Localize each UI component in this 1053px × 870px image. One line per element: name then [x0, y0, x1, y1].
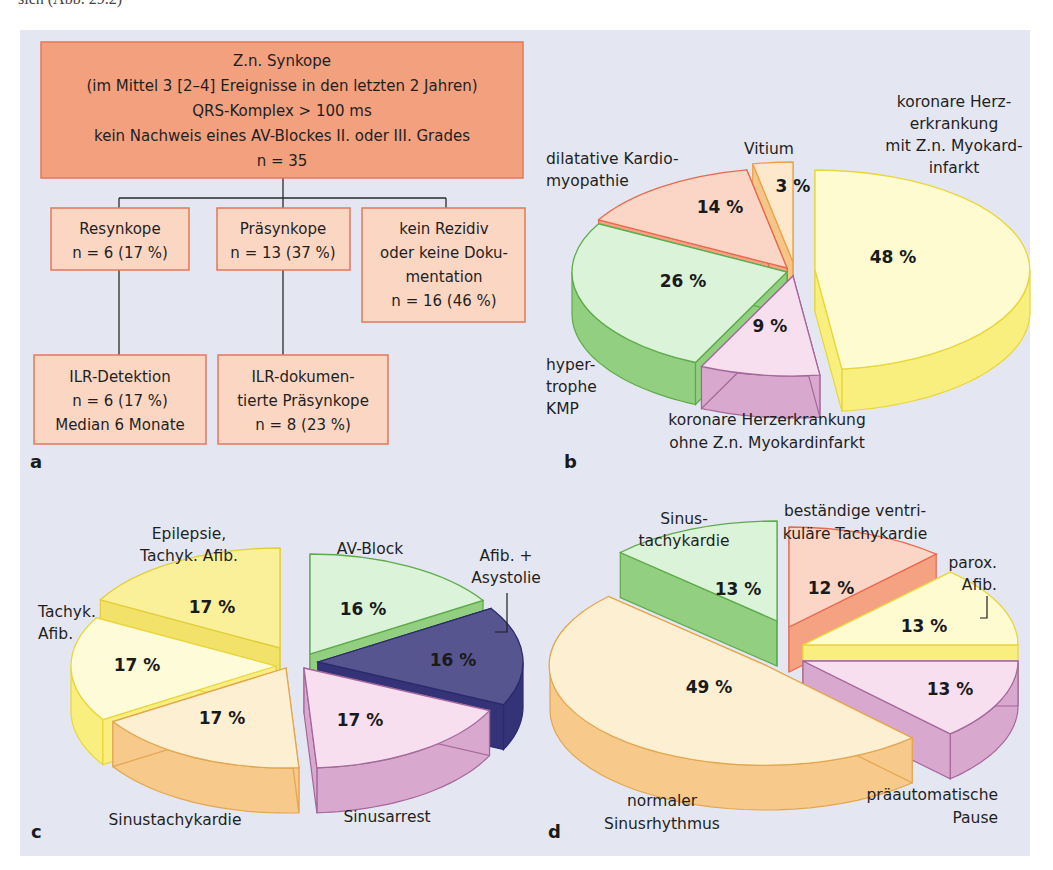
- label-tachyk-afib-1: Tachyk.: [37, 603, 96, 621]
- slice-percent-label: 13 %: [901, 616, 948, 636]
- panel-b-pie-chart: 48 %9 %26 %14 %3 %: [572, 162, 1030, 418]
- resynkope-count: n = 6 (17 %): [72, 244, 168, 262]
- slice-percent-label: 13 %: [715, 579, 762, 599]
- label-khk-ohne-mi-2: ohne Z.n. Myokardinfarkt: [669, 434, 865, 452]
- label-av-block: AV-Block: [337, 540, 403, 558]
- ilr-praesynkope-count: n = 8 (23 %): [255, 416, 351, 434]
- label-afib-asystolie-2: Asystolie: [471, 569, 541, 587]
- root-line-2: (im Mittel 3 [2–4] Ereignisse in den let…: [86, 77, 477, 95]
- slice-percent-label: 17 %: [337, 710, 384, 730]
- ilr-detektion-count: n = 6 (17 %): [72, 392, 168, 410]
- label-epilepsie-2: Tachyk. Afib.: [139, 547, 238, 565]
- root-line-3: QRS-Komplex > 100 ms: [192, 102, 372, 120]
- label-hkmp-2: trophe: [546, 378, 597, 396]
- kein-rezidiv-count: n = 16 (46 %): [391, 292, 496, 310]
- label-vt-1: beständige ventri-: [784, 502, 926, 520]
- label-hkmp-3: KMP: [546, 400, 579, 418]
- slice-percent-label: 9 %: [753, 316, 788, 336]
- label-khk-ohne-mi-1: koronare Herzerkrankung: [668, 411, 866, 429]
- ilr-praesynkope-line-2: tierte Präsynkope: [237, 392, 369, 410]
- kein-rezidiv-line-1: kein Rezidiv: [399, 220, 489, 238]
- panel-a-flowchart: Z.n. Synkope (im Mittel 3 [2–4] Ereignis…: [30, 42, 525, 472]
- label-afib-asystolie-1: Afib. +: [479, 547, 532, 565]
- praesynkope-label: Präsynkope: [240, 220, 326, 238]
- slice-percent-label: 17 %: [114, 655, 161, 675]
- slice-percent-label: 26 %: [660, 271, 707, 291]
- label-normaler-sr-2: Sinusrhythmus: [604, 815, 720, 833]
- label-dkmp-1: dilatative Kardio-: [546, 150, 679, 168]
- slice-percent-label: 12 %: [808, 578, 855, 598]
- label-praeauto-pause-1: präautomatische: [866, 786, 998, 804]
- label-sinusarrest: Sinusarrest: [343, 808, 430, 826]
- resynkope-label: Resynkope: [79, 220, 160, 238]
- root-line-5: n = 35: [257, 152, 308, 170]
- root-line-4: kein Nachweis eines AV-Blockes II. oder …: [94, 127, 470, 145]
- label-parox-afib-2: Afib.: [962, 576, 997, 594]
- ilr-detektion-label: ILR-Detektion: [69, 368, 170, 386]
- label-khk-mit-mi-3: mit Z.n. Myokard-: [885, 137, 1022, 155]
- root-line-1: Z.n. Synkope: [233, 52, 331, 70]
- panel-letter-a: a: [30, 451, 42, 472]
- label-hkmp-1: hyper-: [546, 356, 595, 374]
- label-parox-afib-1: parox.: [949, 554, 997, 572]
- label-khk-mit-mi-2: erkrankung: [910, 115, 999, 133]
- slice-percent-label: 17 %: [199, 708, 246, 728]
- label-sinustachykardie: Sinustachykardie: [109, 811, 242, 829]
- slice-percent-label: 3 %: [776, 176, 811, 196]
- label-tachyk-afib-2: Afib.: [38, 625, 73, 643]
- ilr-detektion-median: Median 6 Monate: [55, 416, 185, 434]
- label-dkmp-2: myopathie: [546, 172, 629, 190]
- label-sinustachy-d-1: Sinus-: [660, 510, 707, 528]
- panel-letter-d: d: [548, 821, 561, 842]
- panel-letter-b: b: [564, 451, 577, 472]
- praesynkope-count: n = 13 (37 %): [230, 244, 335, 262]
- slice-percent-label: 16 %: [340, 599, 387, 619]
- kein-rezidiv-line-2: oder keine Doku-: [380, 244, 508, 262]
- ilr-praesynkope-line-1: ILR-dokumen-: [251, 368, 354, 386]
- label-sinustachy-d-2: tachykardie: [638, 532, 729, 550]
- slice-percent-label: 17 %: [189, 597, 236, 617]
- slice-percent-label: 48 %: [870, 247, 917, 267]
- label-khk-mit-mi-4: infarkt: [929, 159, 980, 177]
- slice-percent-label: 16 %: [430, 650, 477, 670]
- figure-canvas: Z.n. Synkope (im Mittel 3 [2–4] Ereignis…: [0, 0, 1053, 870]
- label-epilepsie-1: Epilepsie,: [152, 525, 226, 543]
- label-vt-2: kuläre Tachykardie: [783, 525, 928, 543]
- slice-percent-label: 13 %: [927, 679, 974, 699]
- kein-rezidiv-line-3: mentation: [405, 268, 482, 286]
- label-praeauto-pause-2: Pause: [952, 809, 998, 827]
- slice-percent-label: 14 %: [697, 197, 744, 217]
- panel-letter-c: c: [31, 821, 42, 842]
- label-normaler-sr-1: normaler: [627, 792, 698, 810]
- label-khk-mit-mi-1: koronare Herz-: [897, 93, 1012, 111]
- slice-percent-label: 49 %: [686, 677, 733, 697]
- label-vitium: Vitium: [744, 140, 794, 158]
- panel-c-pie-chart: 16 %16 %17 %17 %17 %17 %: [71, 548, 523, 813]
